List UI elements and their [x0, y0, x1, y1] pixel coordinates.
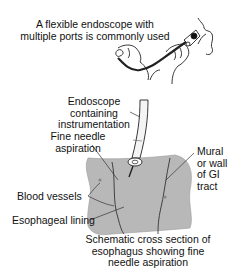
top-caption: A flexible endoscope with multiple ports…	[20, 19, 170, 42]
bottom-caption: Schematic cross section of esophagus sho…	[83, 234, 213, 269]
label-esophageal-lining: Esophageal lining	[12, 215, 95, 227]
label-line: instrumentation	[54, 119, 134, 131]
label-endoscope: Endoscope containing instrumentation	[54, 96, 134, 131]
label-line: Fine needle	[48, 131, 108, 143]
label-line: Endoscope	[54, 96, 134, 108]
label-blood-vessels: Blood vessels	[17, 191, 82, 203]
label-fine-needle-aspiration: Fine needle aspiration	[48, 131, 108, 154]
label-line: aspiration	[48, 143, 108, 155]
label-line: of GI	[197, 169, 227, 181]
label-line: tract	[197, 181, 227, 193]
caption-line: A flexible endoscope with	[20, 19, 170, 31]
caption-line: multiple ports is commonly used	[20, 31, 170, 43]
esophagus-cross-section	[86, 155, 191, 235]
caption-line: needle aspiration	[83, 257, 213, 269]
label-line: Mural	[197, 146, 227, 158]
caption-line: Schematic cross section of	[83, 234, 213, 246]
label-mural-wall: Mural or wall of GI tract	[197, 146, 227, 192]
